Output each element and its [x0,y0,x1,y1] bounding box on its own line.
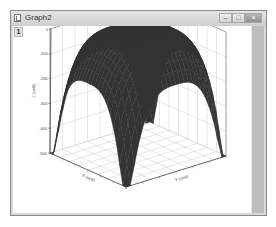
x-axis-title: X (unit) [81,173,96,183]
minimize-button[interactable]: – [219,13,232,23]
y-tick-mark [143,182,144,184]
graph-window: Graph2 – □ × 1 0-100-200-300-400-500Z (u… [10,10,267,216]
x-tick-mark [62,159,63,161]
title-bar[interactable]: Graph2 – □ × [11,11,266,26]
z-tick-label: 0 [46,27,49,32]
y-tick-mark [176,172,177,174]
x-tick-mark [75,164,76,166]
y-tick-mark [226,156,227,158]
y-axis-title: Y (unit) [174,173,189,182]
x-tick-mark [113,181,114,183]
y-tick-mark [193,166,194,168]
close-button[interactable]: × [245,13,262,23]
y-tick-mark [126,187,127,189]
vertical-scrollbar[interactable] [251,26,264,213]
x-tick-mark [49,153,50,155]
z-tick-label: -100 [40,51,49,56]
y-tick-mark [209,161,210,163]
floor-gridline [138,126,214,160]
z-tick-label: -200 [40,76,49,81]
window-title: Graph2 [25,13,52,22]
graph-page[interactable]: 1 0-100-200-300-400-500Z (unit)X (unit)Y… [13,26,251,213]
maximize-button[interactable]: □ [232,13,245,23]
y-tick-mark [159,177,160,179]
z-tick-label: -400 [39,126,48,131]
x-tick-mark [100,176,101,178]
surface-plot[interactable]: 0-100-200-300-400-500Z (unit)X (unit)Y (… [13,26,251,213]
z-tick-label: -500 [39,151,48,156]
z-axis-title: Z (unit) [31,84,36,98]
graph-window-icon [14,14,21,22]
z-tick-label: -300 [39,101,48,106]
x-tick-mark [87,170,88,172]
